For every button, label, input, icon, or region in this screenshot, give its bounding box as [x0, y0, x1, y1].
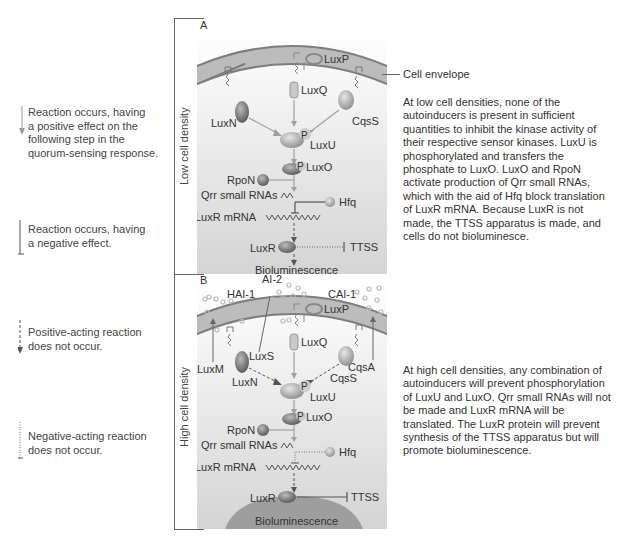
- svg-text:LuxQ: LuxQ: [301, 84, 328, 96]
- svg-text:Hfq: Hfq: [339, 446, 356, 458]
- cell-envelope-pointer: [382, 74, 400, 75]
- panel-b-description: At high cell densities, any combination …: [403, 364, 613, 458]
- svg-text:LuxP: LuxP: [324, 53, 349, 65]
- svg-text:B: B: [200, 274, 207, 286]
- svg-text:LuxU: LuxU: [310, 139, 336, 151]
- svg-text:LuxM: LuxM: [197, 363, 224, 375]
- cqss-protein: [338, 90, 354, 110]
- solid-arrow-icon: [18, 106, 26, 136]
- svg-text:TTSS: TTSS: [350, 241, 378, 253]
- low-density-label: Low cell density: [178, 107, 190, 185]
- svg-text:AI-2: AI-2: [262, 274, 282, 285]
- svg-text:P: P: [297, 161, 304, 172]
- svg-text:LuxO: LuxO: [306, 161, 333, 173]
- luxr-protein: [278, 241, 296, 253]
- svg-text:LuxP: LuxP: [324, 303, 349, 315]
- svg-text:LuxN: LuxN: [232, 376, 258, 388]
- svg-text:CAI-1: CAI-1: [328, 288, 356, 300]
- svg-text:LuxR mRNA: LuxR mRNA: [197, 211, 257, 223]
- svg-text:CqsS: CqsS: [330, 372, 357, 384]
- svg-text:TTSS: TTSS: [351, 491, 379, 503]
- luxn-protein: [235, 351, 249, 373]
- svg-text:LuxQ: LuxQ: [301, 336, 328, 348]
- svg-text:P: P: [297, 411, 304, 422]
- svg-text:LuxR mRNA: LuxR mRNA: [197, 461, 257, 473]
- inhibition-bar-icon: [18, 220, 26, 256]
- panel-b-diagram: B HAI-1 AI-2 CAI-1 LuxS LuxM CqsA LuxN L…: [197, 274, 387, 529]
- svg-text:LuxR: LuxR: [250, 242, 276, 254]
- svg-text:Bioluminescence: Bioluminescence: [255, 264, 338, 274]
- legend-text: a positive effect on the: [28, 120, 158, 134]
- legend-text: Positive-acting reaction: [28, 326, 142, 340]
- bracket-divider: [174, 529, 204, 530]
- dotted-inhibition-icon: [18, 422, 26, 462]
- legend-text: following step in the: [28, 133, 158, 147]
- high-density-label: High cell density: [178, 367, 190, 447]
- luxn-protein: [235, 101, 249, 123]
- legend-text: a negative effect.: [28, 237, 145, 251]
- svg-text:Qrr small RNAs: Qrr small RNAs: [201, 439, 278, 451]
- legend-text: Reaction occurs, having: [28, 106, 158, 120]
- cell-envelope-label: Cell envelope: [403, 68, 470, 80]
- svg-text:HAI-1: HAI-1: [227, 288, 255, 300]
- luxq-protein: [290, 82, 298, 98]
- svg-text:LuxO: LuxO: [306, 411, 333, 423]
- luxr-protein: [278, 491, 296, 503]
- svg-text:Hfq: Hfq: [339, 196, 356, 208]
- svg-text:P: P: [301, 381, 308, 392]
- svg-text:Bioluminescence: Bioluminescence: [255, 515, 338, 527]
- legend-text: Negative-acting reaction: [28, 430, 147, 444]
- legend-text: does not occur.: [28, 444, 147, 458]
- luxq-protein: [290, 334, 298, 350]
- panel-a-diagram: A LuxN LuxP LuxQ CqsS P LuxU P LuxO RpoN…: [197, 18, 387, 274]
- legend-text: does not occur.: [28, 340, 142, 354]
- svg-text:LuxR: LuxR: [250, 492, 276, 504]
- svg-text:RpoN: RpoN: [227, 424, 255, 436]
- svg-text:LuxS: LuxS: [249, 350, 274, 362]
- cqss-protein: [338, 346, 354, 366]
- svg-text:LuxU: LuxU: [310, 391, 336, 403]
- legend-text: Reaction occurs, having: [28, 223, 145, 237]
- svg-text:RpoN: RpoN: [227, 174, 255, 186]
- svg-text:LuxN: LuxN: [211, 117, 237, 129]
- panel-a-letter: A: [200, 19, 208, 31]
- rpon-protein: [257, 424, 269, 436]
- panel-a-description: At low cell densities, none of the autoi…: [403, 96, 613, 243]
- dashed-arrow-icon: [18, 320, 26, 356]
- svg-text:Qrr small RNAs: Qrr small RNAs: [201, 189, 278, 201]
- hfq-protein: [325, 447, 335, 457]
- legend-text: quorum-sensing response.: [28, 147, 158, 161]
- svg-text:CqsS: CqsS: [352, 115, 379, 127]
- rpon-protein: [257, 174, 269, 186]
- hfq-protein: [325, 197, 335, 207]
- svg-text:P: P: [301, 130, 308, 141]
